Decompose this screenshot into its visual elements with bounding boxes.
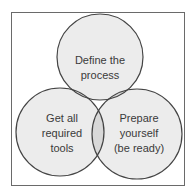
label-line: process [65,68,135,83]
label-line: yourself [104,126,174,141]
label-line: Prepare [104,111,174,126]
label-line: required [27,126,97,141]
label-line: Define the [65,53,135,68]
venn-diagram [0,0,196,196]
label-line: tools [27,141,97,156]
label-get-tools: Get all required tools [27,111,97,156]
label-line: (be ready) [104,141,174,156]
label-define-process: Define the process [65,53,135,83]
label-line: Get all [27,111,97,126]
label-prepare-yourself: Prepare yourself (be ready) [104,111,174,156]
